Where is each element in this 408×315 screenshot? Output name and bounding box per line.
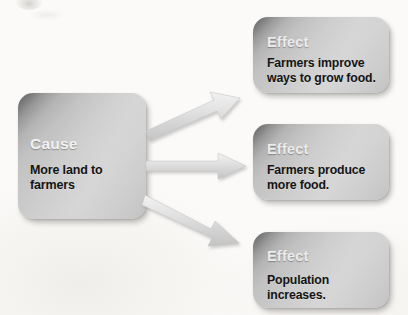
diagram-canvas: Cause More land to farmers Effect Farmer… (0, 0, 408, 315)
arrow-cause-to-effect-3 (142, 195, 239, 246)
effect-kind-label-3: Effect (267, 248, 309, 264)
scan-artifact-secondary (30, 10, 64, 20)
scan-artifact (16, 0, 42, 10)
cause-box[interactable]: Cause More land to farmers (18, 93, 146, 219)
effect-box-3[interactable]: Effect Population increases. (253, 232, 389, 308)
cause-text: More land to farmers (30, 163, 146, 193)
effect-box-1[interactable]: Effect Farmers improve ways to grow food… (253, 17, 389, 93)
arrow-cause-to-effect-2 (146, 153, 246, 179)
effect-text-3: Population increases. (267, 273, 389, 302)
effect-text-1: Farmers improve ways to grow food. (267, 56, 376, 85)
effect-box-2[interactable]: Effect Farmers produce more food. (253, 124, 389, 200)
effect-kind-label-2: Effect (267, 141, 309, 157)
cause-kind-label: Cause (30, 135, 78, 153)
effect-kind-label-1: Effect (267, 34, 309, 50)
effect-text-2: Farmers produce more food. (267, 163, 365, 192)
arrow-cause-to-effect-1 (146, 92, 240, 141)
